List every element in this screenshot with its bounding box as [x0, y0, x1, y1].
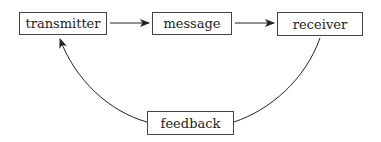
node-transmitter-label: transmitter: [25, 16, 100, 31]
node-receiver-label: receiver: [293, 17, 347, 32]
node-transmitter: transmitter: [19, 12, 107, 35]
node-receiver: receiver: [277, 12, 363, 36]
node-message: message: [152, 12, 232, 35]
node-message-label: message: [163, 16, 220, 31]
arrow-feedback-to-transmitter: [60, 39, 147, 122]
node-feedback-label: feedback: [161, 116, 221, 131]
curve-receiver-to-feedback: [234, 38, 320, 122]
node-feedback: feedback: [147, 111, 234, 135]
